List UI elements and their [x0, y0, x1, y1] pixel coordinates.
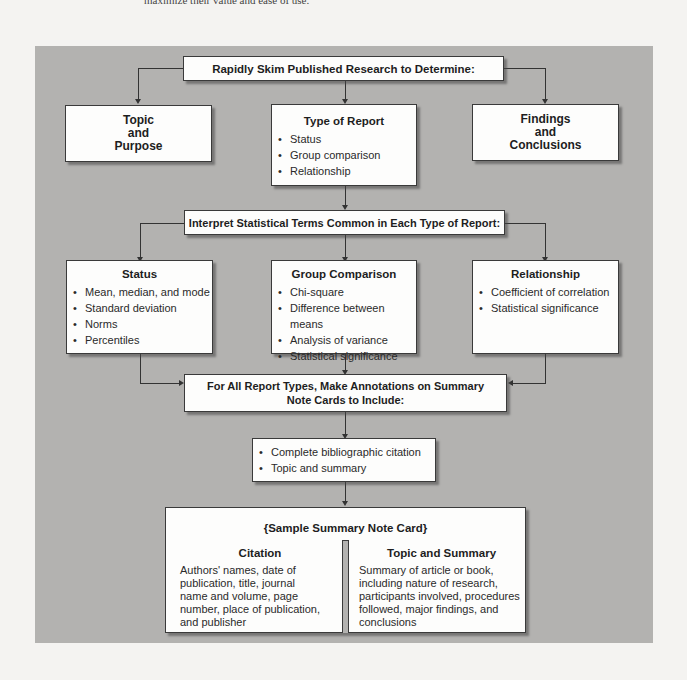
- citation-line: and publisher: [180, 616, 340, 629]
- connector: [345, 235, 346, 258]
- connector: [545, 354, 546, 384]
- citation-text: Authors' names, date of publication, tit…: [180, 564, 340, 629]
- relationship-box: Relationship Coefficient of correlation …: [472, 260, 619, 354]
- interpret-terms-header: Interpret Statistical Terms Common in Ea…: [184, 210, 505, 235]
- connector: [138, 68, 139, 100]
- connector: [138, 68, 184, 69]
- arrow-down-icon: [342, 501, 348, 506]
- group-comparison-title: Group Comparison: [272, 266, 416, 282]
- arrow-down-icon: [135, 99, 141, 104]
- annotations-header: For All Report Types, Make Annotations o…: [184, 374, 507, 412]
- interpret-terms-header-text: Interpret Statistical Terms Common in Ea…: [189, 217, 500, 229]
- connector: [545, 223, 546, 259]
- findings-line: Conclusions: [509, 139, 581, 152]
- annotations-header-line: For All Report Types, Make Annotations o…: [207, 379, 484, 393]
- skim-research-header-text: Rapidly Skim Published Research to Deter…: [212, 63, 475, 75]
- cut-off-body-text: maximize their value and ease of use.: [144, 0, 309, 6]
- summary-line: participants involved, procedures: [359, 590, 524, 603]
- list-item: Mean, median, and mode: [67, 284, 212, 300]
- topic-summary-column: Topic and Summary Summary of article or …: [359, 545, 524, 629]
- group-comparison-box: Group Comparison Chi-square Difference b…: [271, 260, 417, 354]
- connector: [504, 68, 546, 69]
- list-item: Percentiles: [67, 332, 212, 348]
- connector: [140, 354, 141, 384]
- topic-line: Purpose: [114, 140, 162, 153]
- connector: [345, 482, 346, 503]
- summary-line: Summary of article or book,: [359, 564, 524, 577]
- list-item: Statistical significance: [272, 348, 416, 364]
- status-box: Status Mean, median, and mode Standard d…: [66, 260, 213, 354]
- list-item: Analysis of variance: [272, 332, 416, 348]
- list-item: Group comparison: [272, 147, 416, 163]
- citation-line: publication, title, journal: [180, 577, 340, 590]
- list-item: Statistical significance: [473, 300, 618, 316]
- note-card-title: {Sample Summary Note Card}: [166, 520, 525, 536]
- annotations-header-line: Note Cards to Include:: [287, 393, 404, 407]
- topic-summary-title: Topic and Summary: [359, 545, 524, 561]
- citation-title: Citation: [180, 545, 340, 561]
- list-item: Difference between means: [272, 300, 416, 332]
- connector: [140, 223, 184, 224]
- connector: [345, 81, 346, 100]
- list-item: Chi-square: [272, 284, 416, 300]
- connector: [140, 383, 180, 384]
- topic-summary-text: Summary of article or book, including na…: [359, 564, 524, 629]
- citation-line: number, place of publication,: [180, 603, 340, 616]
- citation-line: name and volume, page: [180, 590, 340, 603]
- list-item: Standard deviation: [67, 300, 212, 316]
- summary-line: followed, major findings, and: [359, 603, 524, 616]
- list-item: Relationship: [272, 163, 416, 179]
- citation-column: Citation Authors' names, date of publica…: [180, 545, 340, 629]
- status-title: Status: [67, 266, 212, 282]
- connector: [140, 223, 141, 259]
- summary-line: including nature of research,: [359, 577, 524, 590]
- list-item: Norms: [67, 316, 212, 332]
- skim-research-header: Rapidly Skim Published Research to Deter…: [183, 56, 504, 81]
- findings-conclusions-box: Findings and Conclusions: [472, 104, 619, 161]
- connector: [512, 383, 546, 384]
- connector: [545, 68, 546, 100]
- connector: [345, 412, 346, 436]
- topic-purpose-box: Topic and Purpose: [65, 105, 212, 162]
- relationship-title: Relationship: [473, 266, 618, 282]
- type-of-report-box: Type of Report Status Group comparison R…: [271, 104, 417, 186]
- connector: [345, 186, 346, 206]
- type-of-report-title: Type of Report: [272, 113, 416, 129]
- arrow-left-icon: [508, 380, 513, 386]
- annotation-items-box: Complete bibliographic citation Topic an…: [252, 438, 436, 482]
- connector: [505, 223, 546, 224]
- citation-line: Authors' names, date of: [180, 564, 340, 577]
- summary-line: conclusions: [359, 616, 524, 629]
- list-item: Topic and summary: [253, 460, 435, 476]
- list-item: Status: [272, 131, 416, 147]
- list-item: Coefficient of correlation: [473, 284, 618, 300]
- list-item: Complete bibliographic citation: [253, 444, 435, 460]
- note-card-divider: [342, 540, 349, 633]
